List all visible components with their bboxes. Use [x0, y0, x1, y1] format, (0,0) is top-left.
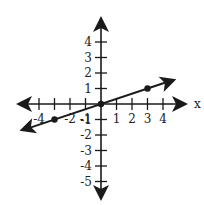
coordinate-plane: -4-2-112344321-1-2-3-4-5x	[0, 0, 204, 205]
x-tick-label: 3	[144, 112, 152, 126]
y-tick-label: -1	[80, 113, 92, 127]
y-tick-label: 4	[84, 35, 92, 49]
y-tick-label: -4	[80, 159, 92, 173]
y-tick-label: 3	[84, 51, 92, 65]
data-point	[98, 101, 104, 107]
x-axis-label: x	[194, 97, 201, 111]
x-tick-label: 2	[128, 112, 136, 126]
y-tick-label: 1	[84, 82, 92, 96]
data-point	[144, 85, 150, 91]
x-tick-label: 4	[159, 112, 167, 126]
y-tick-label: -5	[80, 175, 92, 189]
y-tick-label: -3	[80, 144, 92, 158]
data-point	[51, 116, 57, 122]
x-tick-label: 1	[113, 112, 121, 126]
y-tick-label: -2	[80, 128, 92, 142]
y-tick-label: 2	[84, 66, 92, 80]
